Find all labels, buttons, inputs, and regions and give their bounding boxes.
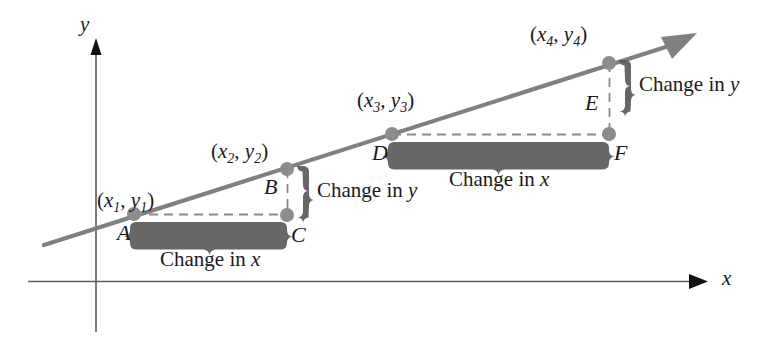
brace-change-in-y-2 xyxy=(619,60,636,117)
point-e-label: E xyxy=(585,92,598,114)
comma-2: , xyxy=(234,139,245,163)
coordinate-label-3: (x3, y3) xyxy=(357,90,414,115)
x-axis xyxy=(28,274,708,289)
comma-1: , xyxy=(120,188,131,212)
close-paren-4: ) xyxy=(580,22,587,46)
annotation-change-in-y-2: Change in y xyxy=(639,74,739,95)
brace-change-in-y-1 xyxy=(297,166,314,223)
close-paren-3: ) xyxy=(407,88,414,112)
comma-3: , xyxy=(380,88,391,112)
change-in-x-2-prefix: Change in xyxy=(449,167,540,191)
point-e-dot xyxy=(602,56,616,70)
open-paren-1: ( xyxy=(97,188,104,212)
open-paren-3: ( xyxy=(357,88,364,112)
y-axis xyxy=(91,38,102,332)
point-d-label: D xyxy=(372,142,388,164)
change-in-y-1-var: y xyxy=(408,178,417,202)
point-c-dot xyxy=(280,208,294,222)
coordinate-label-2: (x2, y2) xyxy=(211,141,268,166)
annotation-change-in-y-1: Change in y xyxy=(317,180,417,201)
point-f-label: F xyxy=(614,142,627,164)
comma-4: , xyxy=(553,22,564,46)
close-paren-1: ) xyxy=(147,188,154,212)
coord2-y: y xyxy=(245,139,254,163)
coord3-y: y xyxy=(391,88,400,112)
open-paren-4: ( xyxy=(530,22,537,46)
point-b-dot xyxy=(280,162,294,176)
point-b-label: B xyxy=(264,176,277,198)
change-in-x-2-var: x xyxy=(540,167,549,191)
coordinate-label-1: (x1, y1) xyxy=(97,190,154,215)
change-in-x-1-var: x xyxy=(251,247,260,271)
annotation-change-in-x-1: Change in x xyxy=(160,249,260,270)
slope-diagram: y x (x1, y1) (x2, y2) (x3, y3) (x4, y4) … xyxy=(0,0,778,339)
close-paren-2: ) xyxy=(261,139,268,163)
coordinate-label-4: (x4, y4) xyxy=(530,24,587,49)
coord2-x: x xyxy=(218,139,227,163)
point-c-label: C xyxy=(291,224,306,246)
coord1-y: y xyxy=(131,188,140,212)
coord4-x: x xyxy=(537,22,546,46)
point-d-dot xyxy=(385,127,399,141)
diagram-canvas xyxy=(0,0,778,339)
coord1-x: x xyxy=(104,188,113,212)
point-a-label: A xyxy=(117,222,130,244)
coord3-x: x xyxy=(364,88,373,112)
change-in-y-2-prefix: Change in xyxy=(639,72,730,96)
change-in-y-1-prefix: Change in xyxy=(317,178,408,202)
coord4-y: y xyxy=(564,22,573,46)
open-paren-2: ( xyxy=(211,139,218,163)
change-in-x-1-prefix: Change in xyxy=(160,247,251,271)
annotation-change-in-x-2: Change in x xyxy=(449,169,549,190)
change-in-y-2-var: y xyxy=(730,72,739,96)
point-f-dot xyxy=(602,127,616,141)
y-axis-label: y xyxy=(80,14,89,35)
x-axis-label: x xyxy=(722,268,731,289)
